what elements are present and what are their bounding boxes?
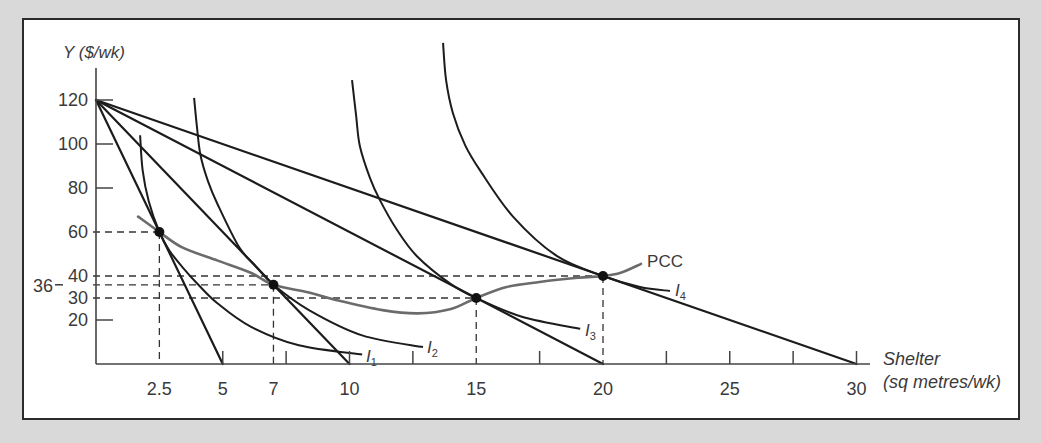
x-tick-label: 25 — [720, 379, 740, 399]
y-tick-label: 120 — [58, 90, 88, 110]
y-tick-label: 60 — [68, 222, 88, 242]
y-tick-label: 100 — [58, 134, 88, 154]
x-tick-label: 7 — [268, 379, 278, 399]
x-tick-label: 15 — [466, 379, 486, 399]
indifference-curve-i4 — [443, 43, 670, 291]
tick-and-curve-labels: I1I2I3I4PCC2.557101520253012010080604036… — [33, 90, 867, 399]
x-tick-label: 10 — [339, 379, 359, 399]
axis-ticks — [55, 100, 857, 364]
y-axis-title: Y ($/wk) — [63, 43, 125, 62]
x-tick-label: 2.5 — [147, 379, 172, 399]
x-tick-label: 30 — [846, 379, 866, 399]
y-tick-label: 80 — [68, 178, 88, 198]
equilibrium-point — [154, 227, 164, 237]
indifference-curves — [140, 43, 670, 355]
y-tick-label: 30 — [68, 288, 88, 308]
figure: I1I2I3I4PCC2.557101520253012010080604036… — [0, 0, 1041, 443]
equilibrium-point — [598, 271, 608, 281]
x-tick-label: 5 — [218, 379, 228, 399]
pcc-label: PCC — [647, 252, 683, 271]
y-tick-label: 36 — [33, 276, 53, 296]
curve-label-i4: I4 — [675, 281, 686, 302]
x-tick-label: 20 — [593, 379, 613, 399]
x-axis-title: Shelter — [883, 349, 941, 369]
curve-label-i1: I1 — [366, 347, 377, 368]
equilibrium-point — [268, 280, 278, 290]
equilibrium-point — [471, 293, 481, 303]
equilibrium-points — [154, 227, 608, 303]
indifference-curve-i2 — [194, 98, 423, 347]
y-tick-label: 40 — [68, 266, 88, 286]
price-consumption-chart: I1I2I3I4PCC2.557101520253012010080604036… — [0, 0, 1041, 443]
y-tick-label: 20 — [68, 310, 88, 330]
curve-label-i2: I2 — [427, 338, 438, 359]
x-axis-units: (sq metres/wk) — [883, 372, 1001, 392]
curve-label-i3: I3 — [585, 321, 596, 342]
